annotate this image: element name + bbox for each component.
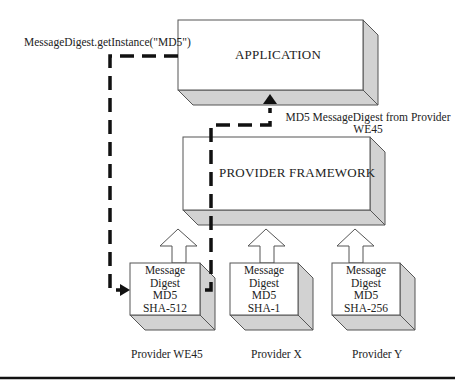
algorithm-line: MD5 — [332, 289, 400, 302]
algorithm-line: Digest — [230, 277, 298, 290]
return-label-line1: MD5 MessageDigest from Provider — [283, 111, 453, 123]
hollow-up-arrow-icon — [248, 229, 285, 263]
algorithm-line: Digest — [130, 277, 200, 290]
algorithm-line: MD5 — [230, 289, 298, 302]
algorithm-line: Digest — [332, 277, 400, 290]
hollow-up-arrow-icon — [160, 229, 197, 263]
provider-x-name: Provider X — [251, 348, 302, 360]
algorithm-line: Message — [130, 264, 200, 277]
algorithm-line: SHA-1 — [230, 302, 298, 315]
call-label: MessageDigest.getInstance("MD5") — [24, 36, 191, 48]
provider-y-name: Provider Y — [352, 348, 402, 360]
provider-framework-label: PROVIDER FRAMEWORK — [219, 165, 375, 181]
return-label: MD5 MessageDigest from Provider WE45 — [283, 111, 453, 135]
provider-framework-box — [183, 137, 385, 225]
application-label: APPLICATION — [235, 47, 321, 63]
provider-we45-name: Provider WE45 — [131, 348, 203, 360]
algorithm-line: SHA-512 — [130, 302, 200, 315]
provider-we45-algorithms: Message Digest MD5 SHA-512 — [130, 264, 200, 314]
provider-x-algorithms: Message Digest MD5 SHA-1 — [230, 264, 298, 314]
algorithm-line: SHA-256 — [332, 302, 400, 315]
provider-y-algorithms: Message Digest MD5 SHA-256 — [332, 264, 400, 314]
algorithm-line: Message — [332, 264, 400, 277]
hollow-up-arrow-icon — [337, 229, 374, 263]
arrowhead-right-icon — [120, 284, 130, 296]
algorithm-line: MD5 — [130, 289, 200, 302]
algorithm-line: Message — [230, 264, 298, 277]
request-path — [110, 56, 178, 290]
return-label-line2: WE45 — [283, 123, 453, 135]
diagram-canvas — [0, 0, 455, 382]
